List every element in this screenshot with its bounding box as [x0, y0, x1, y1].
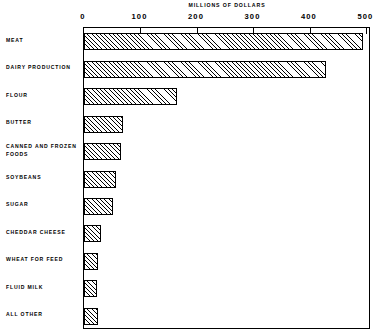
x-tick-label-0: 0: [80, 12, 85, 21]
x-tick-mark-100: [140, 28, 141, 34]
category-label: SUGAR: [6, 201, 82, 209]
bar: [84, 143, 121, 160]
x-tick-label-100: 100: [131, 12, 147, 21]
x-tick-label-400: 400: [301, 12, 317, 21]
bar: [84, 33, 363, 50]
x-axis-tick-labels: 0100200300400500: [0, 12, 375, 24]
bar: [84, 225, 101, 242]
bar-chart: MILLIONS OF DOLLARS 0100200300400500 MEA…: [0, 0, 375, 336]
category-label: CHEDDAR CHEESE: [6, 229, 82, 237]
plot-area: [83, 27, 370, 329]
bar: [84, 280, 97, 297]
category-label: MEAT: [6, 37, 82, 45]
bar: [84, 116, 123, 133]
x-tick-label-300: 300: [244, 12, 260, 21]
x-tick-mark-200: [197, 28, 198, 34]
x-tick-label-200: 200: [188, 12, 204, 21]
bar: [84, 198, 113, 215]
bar: [84, 171, 116, 188]
category-label: FLUID MILK: [6, 284, 82, 292]
bar: [84, 61, 326, 78]
bar: [84, 88, 177, 105]
bars-layer: [84, 28, 369, 328]
category-label: SOYBEANS: [6, 174, 82, 182]
bar: [84, 253, 98, 270]
category-label: ALL OTHER: [6, 311, 82, 319]
x-tick-mark-500: [366, 28, 367, 34]
category-label: WHEAT FOR FEED: [6, 256, 82, 264]
chart-axis-title: MILLIONS OF DOLLARS: [83, 2, 371, 8]
bar: [84, 308, 98, 325]
x-tick-mark-300: [253, 28, 254, 34]
category-label: DAIRY PRODUCTION: [6, 64, 82, 72]
y-axis-category-labels: MEATDAIRY PRODUCTIONFLOURBUTTERCANNED AN…: [0, 27, 83, 329]
x-tick-label-500: 500: [357, 12, 373, 21]
x-tick-mark-400: [310, 28, 311, 34]
category-label: FLOUR: [6, 92, 82, 100]
category-label: CANNED AND FROZEN FOODS: [6, 143, 82, 158]
category-label: BUTTER: [6, 119, 82, 127]
